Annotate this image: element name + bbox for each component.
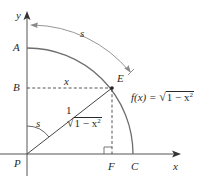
height-radicand: 1 − x: [75, 117, 98, 129]
sqrt-icon: √: [67, 116, 74, 130]
arc-s-label: s: [80, 28, 84, 39]
point-E-dot: [110, 86, 114, 90]
point-P-label: P: [14, 158, 21, 169]
unit-circle-diagram: [0, 0, 209, 176]
y-axis-label: y: [16, 10, 21, 21]
function-radicand: 1 − x: [167, 91, 190, 103]
function-prefix: f(x) =: [131, 91, 159, 103]
point-E-label: E: [117, 73, 124, 84]
angle-s-label: s: [36, 118, 40, 129]
height-exponent: 2: [97, 117, 101, 125]
radius-one-label: 1: [66, 105, 72, 116]
point-C-label: C: [131, 161, 138, 172]
point-B-label: B: [13, 82, 20, 93]
function-label: f(x) = √1 − x2: [131, 91, 194, 104]
function-exponent: 2: [190, 91, 194, 99]
right-angle-marker: [104, 147, 112, 154]
segment-x-label: x: [64, 76, 69, 87]
sqrt-icon: √: [159, 90, 166, 104]
arc-s-start-arrow-icon: [30, 23, 38, 29]
height-sqrt-label: √1 − x2: [67, 117, 102, 130]
x-axis-label: x: [173, 161, 178, 172]
quarter-circle-arc: [27, 48, 133, 154]
point-A-label: A: [13, 42, 20, 53]
point-F-label: F: [108, 161, 115, 172]
